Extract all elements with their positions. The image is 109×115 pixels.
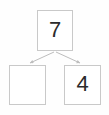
whole-value: 7 [49,19,61,41]
part-box-right[interactable]: 4 [64,65,101,105]
part-right-value: 4 [76,73,88,95]
part-box-left[interactable] [9,65,46,105]
arrow-to-left-part [30,52,54,63]
number-bond-diagram: 7 4 [0,0,109,115]
whole-box[interactable]: 7 [37,10,73,51]
arrow-to-right-part [56,52,80,63]
